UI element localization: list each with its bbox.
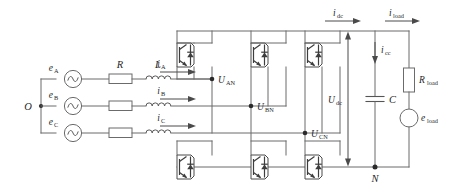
- cap-current-subscript: cc: [385, 49, 391, 56]
- dc-voltage-arrow-down: [345, 159, 351, 167]
- igbt-c-high: [305, 43, 322, 67]
- circuit-svg: O e A e B e C R L i A i B i C U AN U BN …: [0, 0, 460, 192]
- cap-current-label: i: [381, 45, 384, 55]
- dc-current-label: i: [333, 8, 336, 18]
- load-current-label: i: [389, 8, 392, 18]
- load-resistor: [404, 68, 415, 92]
- igbt-a-high: [177, 43, 194, 67]
- source-b-subscript: B: [54, 94, 58, 101]
- pole-c-subscript: CN: [319, 133, 328, 140]
- source-b-symbol: [64, 97, 81, 114]
- current-b-label: i: [157, 86, 160, 96]
- cap-current-arrow-head: [372, 56, 378, 64]
- resistor-a: [109, 74, 132, 84]
- source-a-symbol: [64, 70, 81, 87]
- load-resistor-label: R: [418, 75, 425, 85]
- current-c-label: i: [157, 113, 160, 123]
- load-current-subscript: load: [393, 12, 405, 19]
- pole-b-subscript: BN: [265, 106, 274, 113]
- inductor-a: [146, 76, 171, 79]
- dc-voltage-label: U: [328, 95, 336, 105]
- current-a-label: i: [157, 59, 160, 69]
- current-a-subscript: A: [161, 63, 166, 70]
- current-b-subscript: B: [161, 90, 165, 97]
- pole-b-label: U: [257, 102, 265, 112]
- load-source-symbol: [400, 109, 418, 127]
- dc-voltage-subscript: dc: [336, 99, 342, 106]
- capacitor-label: C: [389, 94, 397, 105]
- source-c-symbol: [64, 124, 81, 141]
- pole-c-node-dot: [303, 131, 308, 136]
- load-resistor-subscript: load: [427, 79, 439, 86]
- neutral-node-label: O: [24, 101, 32, 112]
- inductor-b: [146, 103, 171, 106]
- source-b-label: e: [49, 90, 53, 100]
- igbt-b-high: [251, 43, 268, 67]
- dc-current-subscript: dc: [337, 12, 343, 19]
- source-a-subscript: A: [54, 67, 59, 74]
- resistor-b: [109, 101, 132, 111]
- negative-rail-node-dot: [373, 165, 378, 170]
- source-c-label: e: [49, 117, 53, 127]
- pole-a-label: U: [218, 75, 226, 85]
- circuit-diagram: O e A e B e C R L i A i B i C U AN U BN …: [0, 0, 460, 192]
- pole-c-label: U: [311, 129, 319, 139]
- negative-rail-node-label: N: [370, 173, 379, 184]
- resistor-c: [109, 128, 132, 138]
- igbt-c-low: [305, 155, 322, 179]
- source-a-label: e: [49, 63, 53, 73]
- line-resistor-label: R: [116, 59, 124, 70]
- inductor-c: [146, 130, 171, 133]
- dc-current-arrow-head: [353, 18, 361, 24]
- current-c-subscript: C: [161, 117, 165, 124]
- igbt-a-low: [177, 155, 194, 179]
- dc-voltage-arrow-up: [345, 32, 351, 40]
- load-current-arrow-head: [412, 18, 420, 24]
- source-c-subscript: C: [54, 121, 58, 128]
- pole-a-subscript: AN: [226, 79, 236, 86]
- load-source-label: e: [421, 113, 425, 123]
- current-b-arrow-head: [188, 96, 196, 102]
- pole-a-node-dot: [210, 77, 215, 82]
- current-c-arrow-head: [188, 123, 196, 129]
- pole-b-node-dot: [249, 104, 254, 109]
- igbt-b-low: [251, 155, 268, 179]
- load-source-subscript: load: [427, 117, 439, 124]
- current-a-arrow-head: [188, 69, 196, 75]
